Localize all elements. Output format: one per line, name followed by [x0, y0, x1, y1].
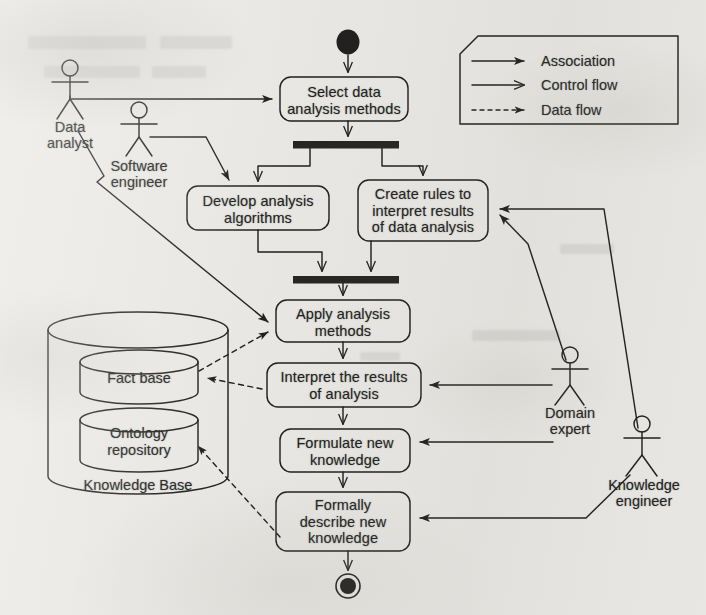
- fact-base-label: Fact base: [80, 370, 198, 387]
- actor-label-software-engineer-line1: Software: [84, 158, 194, 174]
- legend-label-association: Association: [541, 53, 615, 69]
- edge-fact-base-to-apply: [199, 332, 268, 371]
- activity-node-formulate-new-knowledge[interactable]: [280, 429, 410, 472]
- actor-label-domain-expert-line2: expert: [520, 421, 620, 437]
- actor-label-knowledge-engineer-line2: engineer: [588, 493, 700, 509]
- actor-label-data-analyst: Data analyst: [20, 119, 120, 151]
- knowledge-base-label-line1: Knowledge Base: [48, 477, 228, 494]
- actor-label-domain-expert: Domain expert: [520, 405, 620, 437]
- actor-label-knowledge-engineer: Knowledge engineer: [588, 477, 700, 509]
- edge-fork-to-create: [382, 149, 423, 176]
- fork-bar: [293, 141, 399, 149]
- initial-node: [337, 30, 360, 55]
- actor-knowledge-engineer[interactable]: [624, 416, 660, 476]
- activity-node-select[interactable]: [280, 77, 408, 121]
- final-node: [336, 574, 360, 598]
- edge-interpret-to-fact-base: [207, 378, 262, 389]
- activity-node-interpret-results[interactable]: [267, 363, 421, 407]
- edge-develop-to-join: [258, 230, 322, 271]
- actor-label-data-analyst-line2: analyst: [20, 135, 120, 151]
- legend-label-control-flow: Control flow: [541, 77, 618, 93]
- join-bar: [293, 276, 399, 284]
- activity-node-apply-analysis-methods[interactable]: [276, 300, 410, 342]
- fact-base-label-line1: Fact base: [80, 370, 198, 387]
- ontology-repository-label-line1: Ontology: [80, 425, 198, 442]
- actor-domain-expert[interactable]: [552, 347, 588, 405]
- edge-domain-expert-to-create: [500, 215, 566, 360]
- ontology-repository-label: Ontology repository: [80, 425, 198, 458]
- actor-label-data-analyst-line1: Data: [20, 119, 120, 135]
- activity-node-develop-analysis-algorithms[interactable]: [187, 186, 329, 230]
- actor-software-engineer[interactable]: [121, 102, 157, 156]
- actor-label-knowledge-engineer-line1: Knowledge: [588, 477, 700, 493]
- diagram-canvas: Select data analysis methods Develop ana…: [0, 0, 706, 615]
- actor-data-analyst[interactable]: [52, 60, 88, 119]
- knowledge-base-cylinder[interactable]: [48, 312, 228, 494]
- edge-fork-to-develop: [258, 149, 310, 182]
- actor-label-domain-expert-line1: Domain: [520, 405, 620, 421]
- edge-data-analyst-to-select: [70, 96, 272, 99]
- knowledge-base-label: Knowledge Base: [48, 477, 228, 494]
- edge-knowledge-engineer-to-create: [500, 209, 638, 428]
- activity-node-formally-describe[interactable]: [276, 492, 410, 551]
- actor-label-software-engineer: Software engineer: [84, 158, 194, 190]
- actor-label-software-engineer-line2: engineer: [84, 174, 194, 190]
- ontology-repository-label-line2: repository: [80, 442, 198, 459]
- activity-node-create-rules[interactable]: [358, 180, 488, 241]
- legend-label-data-flow: Data flow: [541, 102, 601, 118]
